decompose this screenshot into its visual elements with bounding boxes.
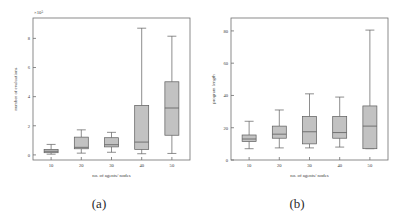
x-tick-label: 40 bbox=[337, 163, 342, 168]
box-group-40 bbox=[135, 28, 149, 154]
box-group-50 bbox=[363, 30, 377, 149]
panel-a: ×10⁵024681020304050no. of agents/ nodesn… bbox=[0, 0, 198, 214]
y-tick-label: 40 bbox=[223, 93, 228, 98]
x-tick-label: 30 bbox=[307, 163, 312, 168]
y-tick-label: 60 bbox=[223, 61, 228, 66]
box-iqr bbox=[272, 126, 286, 138]
y-tick-label: 0 bbox=[28, 153, 31, 158]
box-group-30 bbox=[105, 132, 119, 152]
x-tick-label: 30 bbox=[109, 163, 114, 168]
panel-b: 0204060801020304050no. of agents/ nodesp… bbox=[198, 0, 396, 214]
x-tick-label: 20 bbox=[79, 163, 84, 168]
box-iqr bbox=[242, 135, 256, 141]
box-iqr bbox=[333, 116, 347, 138]
y-tick-label: 8 bbox=[28, 36, 31, 41]
box-iqr bbox=[135, 105, 149, 149]
plot-area-b: 0204060801020304050no. of agents/ nodesp… bbox=[198, 0, 396, 186]
y-tick-label: 80 bbox=[223, 29, 228, 34]
box-group-40 bbox=[333, 97, 347, 147]
subfigure-caption-a: (a) bbox=[0, 196, 198, 212]
x-tick-label: 20 bbox=[277, 163, 282, 168]
x-tick-label: 40 bbox=[139, 163, 144, 168]
y-tick-label: 0 bbox=[226, 158, 229, 163]
box-iqr bbox=[303, 116, 317, 143]
box-group-10 bbox=[44, 144, 58, 154]
y-tick-label: 20 bbox=[223, 126, 228, 131]
box-group-50 bbox=[165, 36, 179, 153]
box-group-10 bbox=[242, 121, 256, 148]
x-axis-title: no. of agents/ nodes bbox=[92, 173, 131, 178]
x-tick-label: 10 bbox=[247, 163, 252, 168]
x-tick-label: 50 bbox=[368, 163, 373, 168]
y-tick-label: 6 bbox=[28, 65, 31, 70]
box-iqr bbox=[105, 138, 119, 147]
boxplot-chart-a: ×10⁵024681020304050no. of agents/ nodesn… bbox=[0, 0, 198, 186]
x-tick-label: 50 bbox=[170, 163, 175, 168]
y-tick-label: 2 bbox=[28, 124, 31, 129]
x-tick-label: 10 bbox=[49, 163, 54, 168]
boxplot-chart-b: 0204060801020304050no. of agents/ nodesp… bbox=[198, 0, 396, 186]
y-axis-exponent-label: ×10⁵ bbox=[34, 10, 44, 15]
box-iqr bbox=[363, 106, 377, 149]
x-axis-title: no. of agents/ nodes bbox=[290, 173, 329, 178]
y-tick-label: 4 bbox=[28, 94, 31, 99]
plot-area-a: ×10⁵024681020304050no. of agents/ nodesn… bbox=[0, 0, 198, 186]
y-axis-title: number of evaluations bbox=[13, 67, 18, 110]
boxplot-figure: ×10⁵024681020304050no. of agents/ nodesn… bbox=[0, 0, 396, 214]
box-group-30 bbox=[303, 94, 317, 148]
subfigure-caption-b: (b) bbox=[198, 196, 396, 212]
y-axis-title: program length bbox=[211, 74, 216, 104]
box-group-20 bbox=[272, 110, 286, 148]
box-iqr bbox=[165, 82, 179, 135]
box-group-20 bbox=[74, 130, 88, 153]
